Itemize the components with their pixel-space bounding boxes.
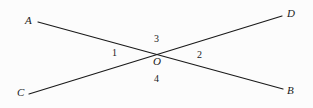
point-label-c: C [17,87,24,98]
point-label-o: O [153,56,161,67]
angle-label-4: 4 [154,74,159,84]
point-label-a: A [25,15,32,26]
angle-label-1: 1 [112,48,117,58]
figure-canvas [0,0,313,108]
angle-label-2: 2 [197,50,202,60]
geometry-figure: A B C D O 1 2 3 4 [0,0,313,108]
point-label-d: D [287,8,295,19]
angle-label-3: 3 [154,34,159,44]
point-label-b: B [287,85,294,96]
